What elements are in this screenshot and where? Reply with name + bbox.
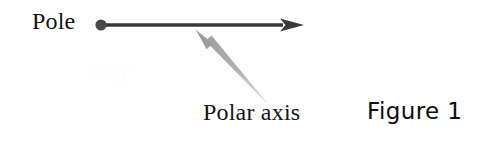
right-arrow-icon	[280, 18, 304, 31]
diagonal-pointer-arrow-icon	[196, 30, 269, 105]
figure-caption: Figure 1	[367, 100, 462, 123]
pole-label: Pole	[32, 9, 75, 33]
polar-coordinate-figure: a ray Pole Polar axis Figure 1	[0, 0, 488, 141]
polar-axis-label: Polar axis	[203, 100, 300, 124]
pole-point-icon	[95, 19, 106, 30]
polar-axis-ray	[101, 18, 304, 31]
